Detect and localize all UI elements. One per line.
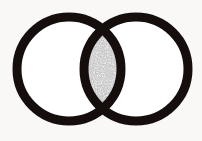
venn-diagram-svg bbox=[0, 0, 202, 141]
venn-diagram-figure bbox=[0, 0, 202, 141]
